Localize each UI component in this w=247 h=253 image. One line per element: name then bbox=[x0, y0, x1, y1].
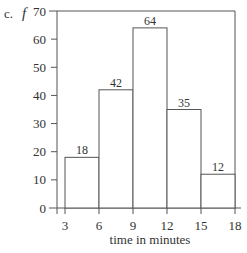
y-tick-label: 60 bbox=[33, 32, 46, 47]
x-axis-label: time in minutes bbox=[110, 232, 191, 247]
bar-value-label: 42 bbox=[110, 76, 122, 90]
histogram-bar bbox=[99, 90, 133, 208]
x-tick-label: 9 bbox=[130, 218, 137, 233]
y-tick-label: 10 bbox=[33, 172, 46, 187]
y-axis-label: f bbox=[22, 5, 28, 21]
bar-value-label: 18 bbox=[76, 143, 88, 157]
bar-value-label: 35 bbox=[178, 96, 190, 110]
y-tick-label: 50 bbox=[33, 60, 46, 75]
y-axis-ticks: 010203040506070 bbox=[33, 4, 57, 216]
y-tick-label: 70 bbox=[33, 4, 46, 19]
y-tick-label: 40 bbox=[33, 88, 46, 103]
bar-value-label: 12 bbox=[212, 160, 224, 174]
x-axis-ticks: 369121518 bbox=[62, 208, 242, 233]
bars: 1842643512 bbox=[65, 14, 235, 208]
x-tick-label: 18 bbox=[229, 218, 242, 233]
x-tick-label: 6 bbox=[96, 218, 103, 233]
histogram-bar bbox=[133, 28, 167, 208]
y-tick-label: 0 bbox=[40, 201, 47, 216]
histogram-bar bbox=[201, 174, 235, 208]
part-label: c. bbox=[4, 6, 13, 21]
bar-value-label: 64 bbox=[144, 14, 156, 28]
x-tick-label: 12 bbox=[161, 218, 174, 233]
histogram-bar bbox=[65, 157, 99, 208]
histogram-bar bbox=[167, 110, 201, 209]
histogram-chart: 1842643512 010203040506070 369121518 c. … bbox=[0, 0, 247, 253]
y-tick-label: 20 bbox=[33, 144, 46, 159]
y-tick-label: 30 bbox=[33, 116, 46, 131]
x-tick-label: 15 bbox=[195, 218, 208, 233]
x-tick-label: 3 bbox=[62, 218, 69, 233]
